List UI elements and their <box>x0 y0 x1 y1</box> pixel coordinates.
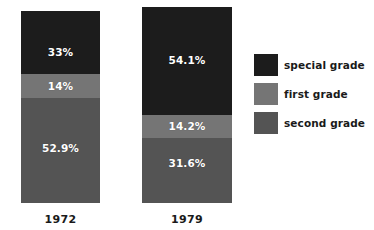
bar-group-1979: 54.1% 14.2% 31.6% 1979 <box>142 7 232 203</box>
legend-label-special-grade: special grade <box>284 60 365 71</box>
segment-value-label: 31.6% <box>169 158 206 169</box>
bar-group-1972: 33% 14% 52.9% 1972 <box>21 11 100 203</box>
legend-label-second-grade: second grade <box>284 118 365 129</box>
segment-value-label: 54.1% <box>169 55 206 66</box>
stacked-bar: 54.1% 14.2% 31.6% <box>142 7 232 203</box>
legend-item-special-grade[interactable]: special grade <box>254 54 365 76</box>
bar-segment-second-grade[interactable]: 52.9% <box>21 98 100 203</box>
legend-swatch-second-grade <box>254 112 278 134</box>
bar-segment-first-grade[interactable]: 14.2% <box>142 115 232 138</box>
category-label-1972: 1972 <box>21 214 100 225</box>
bar-segment-special-grade[interactable]: 54.1% <box>142 7 232 115</box>
legend-item-first-grade[interactable]: first grade <box>254 83 348 105</box>
category-label-1979: 1979 <box>142 214 232 225</box>
legend-swatch-special-grade <box>254 54 278 76</box>
segment-value-label: 14% <box>48 81 73 92</box>
bar-segment-first-grade[interactable]: 14% <box>21 74 100 98</box>
legend-label-first-grade: first grade <box>284 89 348 100</box>
segment-value-label: 14.2% <box>169 121 206 132</box>
legend-swatch-first-grade <box>254 83 278 105</box>
segment-value-label: 52.9% <box>42 143 79 154</box>
segment-value-label: 33% <box>48 47 73 58</box>
stacked-bar: 33% 14% 52.9% <box>21 11 100 203</box>
bar-segment-special-grade[interactable]: 33% <box>21 11 100 74</box>
legend-item-second-grade[interactable]: second grade <box>254 112 365 134</box>
stacked-bar-chart: 33% 14% 52.9% 1972 54.1% 14.2% 31.6% 197… <box>0 0 374 230</box>
bar-segment-second-grade[interactable]: 31.6% <box>142 138 232 203</box>
